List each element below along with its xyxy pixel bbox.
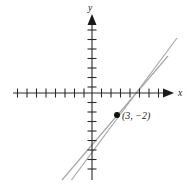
- x-axis: x: [13, 88, 183, 98]
- graph-lines: [62, 38, 177, 180]
- graph-line-1: [72, 38, 178, 180]
- y-axis-arrow-icon: [88, 14, 97, 25]
- x-axis-label: x: [177, 88, 183, 98]
- graph-figure: x y: [0, 0, 190, 187]
- point-coordinate-label: (3, −2): [122, 110, 151, 122]
- x-axis-arrow-icon: [163, 89, 174, 98]
- graph-line-2: [62, 56, 168, 180]
- point-marker-dot: [114, 112, 120, 118]
- y-axis-label: y: [87, 3, 93, 13]
- coordinate-plane-svg: x y: [0, 0, 190, 187]
- y-axis: y: [87, 3, 97, 180]
